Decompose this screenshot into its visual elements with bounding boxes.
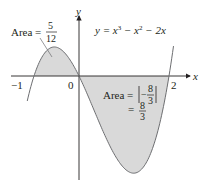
area-right-num: 8 xyxy=(140,100,145,111)
equation-label: y = x3 − x2 − 2x xyxy=(94,24,166,36)
area-right-abs-num: 8 xyxy=(148,83,153,94)
area-right-minus: − xyxy=(141,89,147,100)
y-axis-label: y xyxy=(75,5,81,17)
area-left-numerator: 5 xyxy=(48,20,53,31)
x-axis-label: x xyxy=(192,70,198,82)
area-right-den: 3 xyxy=(140,111,145,122)
area-left-prefix: Area = xyxy=(11,26,41,38)
tick-neg-one: −1 xyxy=(11,79,23,91)
tick-two: 2 xyxy=(171,79,177,91)
area-right-equals: = xyxy=(128,103,134,115)
tick-zero: 0 xyxy=(68,79,74,91)
shaded-region-left xyxy=(34,47,79,76)
area-right-prefix: Area = xyxy=(103,89,133,101)
area-right-abs-den: 3 xyxy=(148,95,153,106)
area-diagram: y x −1 0 2 y = x3 − x2 − 2x Area = 5 12 … xyxy=(0,0,209,191)
area-left-denominator: 12 xyxy=(46,33,56,44)
